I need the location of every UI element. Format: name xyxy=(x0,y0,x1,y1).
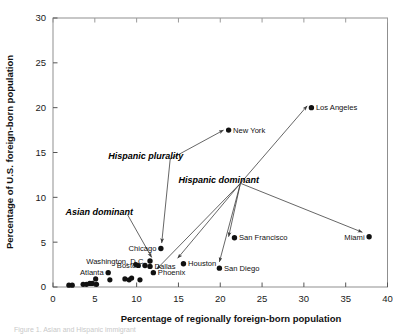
x-axis-ticks xyxy=(53,18,388,287)
annotation-arrow xyxy=(240,183,362,232)
annotation-arrow xyxy=(240,106,307,183)
x-tick-label: 5 xyxy=(92,293,97,304)
x-tick-label: 0 xyxy=(50,293,55,304)
city-label: Chicago xyxy=(129,244,157,253)
x-tick-label: 25 xyxy=(257,293,268,304)
city-label: Miami xyxy=(344,233,365,242)
data-point xyxy=(107,277,112,282)
annotation-arrow xyxy=(178,183,241,258)
data-point xyxy=(129,275,134,280)
y-axis-ticks xyxy=(53,18,58,287)
y-tick-label: 0 xyxy=(41,281,46,292)
annotation-label: Asian dominant xyxy=(65,207,135,217)
city-label: Houston xyxy=(188,259,216,268)
x-tick-label: 15 xyxy=(173,293,184,304)
plot-frame xyxy=(53,18,388,287)
data-point xyxy=(147,258,152,263)
y-tick-label: 5 xyxy=(41,237,46,248)
y-axis-title: Percentage of U.S. foreign-born populati… xyxy=(4,55,15,249)
data-point xyxy=(217,265,222,270)
data-point xyxy=(232,235,237,240)
city-label: San Diego xyxy=(224,264,259,273)
data-point xyxy=(137,277,142,282)
annotation-label: Hispanic plurality xyxy=(108,151,184,161)
y-tick-label: 20 xyxy=(35,102,46,113)
city-label: Los Angeles xyxy=(316,103,358,112)
scatter-plot: 0510152025303540 051015202530 Los Angele… xyxy=(0,0,414,334)
data-point xyxy=(366,234,371,239)
annotation-labels: Hispanic pluralityHispanic dominantAsian… xyxy=(65,151,260,217)
city-label: Atlanta xyxy=(80,268,104,277)
annotation-arrow xyxy=(162,159,170,243)
y-tick-label: 25 xyxy=(35,57,46,68)
annotation-arrow xyxy=(219,183,240,262)
x-tick-label: 20 xyxy=(215,293,226,304)
y-axis-tick-labels: 051015202530 xyxy=(35,12,46,292)
data-point xyxy=(226,127,231,132)
city-label: New York xyxy=(233,126,265,135)
data-point xyxy=(147,264,152,269)
city-label: San Francisco xyxy=(239,233,288,242)
data-point xyxy=(94,282,99,287)
data-point xyxy=(105,270,110,275)
plot-border xyxy=(53,18,388,287)
x-tick-label: 10 xyxy=(131,293,142,304)
annotation-label: Hispanic dominant xyxy=(178,175,260,185)
y-tick-label: 30 xyxy=(35,12,46,23)
data-point xyxy=(70,283,75,288)
x-axis-tick-labels: 0510152025303540 xyxy=(50,293,392,304)
city-label: Phoenix xyxy=(158,268,186,277)
x-tick-label: 40 xyxy=(382,293,393,304)
data-point xyxy=(309,105,314,110)
x-axis-title: Percentage of regionally foreign-born po… xyxy=(121,313,342,324)
city-label: Boston xyxy=(117,261,141,270)
y-tick-label: 15 xyxy=(35,147,46,158)
y-tick-label: 10 xyxy=(35,192,46,203)
annotation-arrow xyxy=(157,183,241,269)
x-tick-label: 30 xyxy=(299,293,310,304)
figure-container: 0510152025303540 051015202530 Los Angele… xyxy=(0,0,414,334)
x-tick-label: 35 xyxy=(340,293,351,304)
figure-caption: Figure 1. Asian and Hispanic immigrant xyxy=(14,326,136,334)
data-point xyxy=(158,246,163,251)
data-point xyxy=(181,261,186,266)
